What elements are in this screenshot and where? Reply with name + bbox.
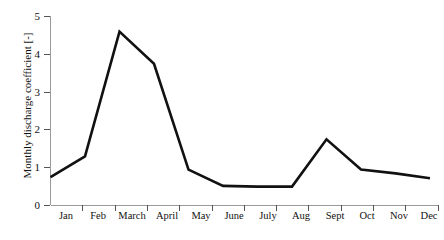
- y-tick-marks: [44, 17, 50, 206]
- chart-figure: Monthly discharge coefficient [-] 5 4 3 …: [0, 0, 444, 240]
- data-series-line: [51, 32, 431, 187]
- plot-area: [0, 0, 444, 240]
